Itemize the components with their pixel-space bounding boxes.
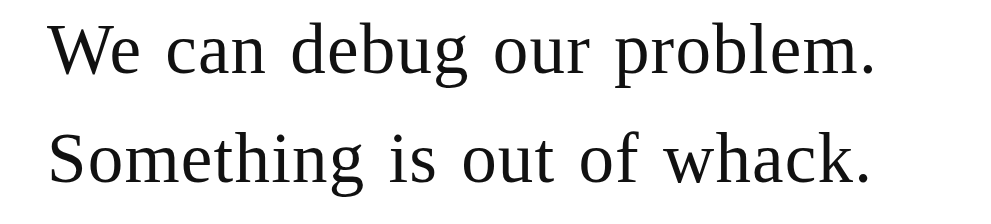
text-line-1: We can debug our problem.: [47, 14, 878, 85]
text-line-2: Something is out of whack.: [47, 123, 873, 194]
